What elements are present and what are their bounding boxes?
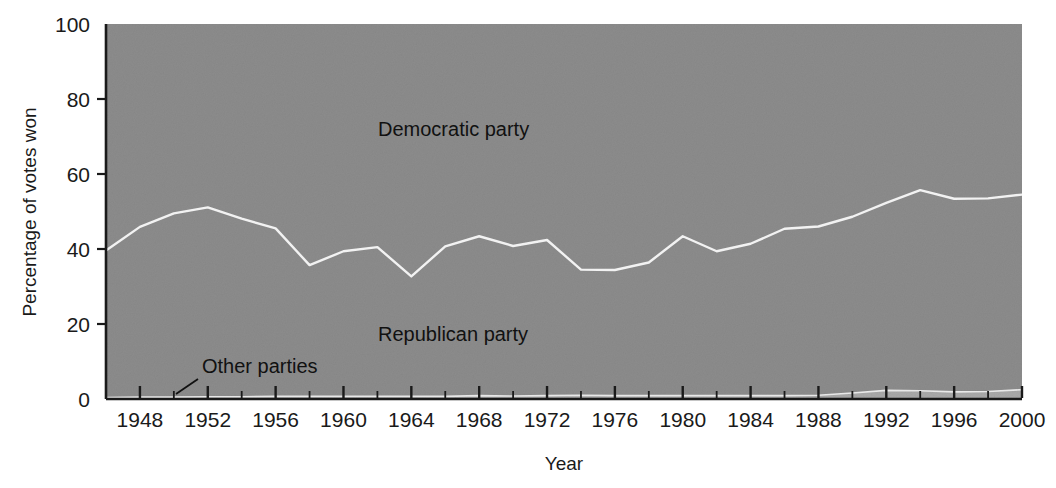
- x-axis-tick-label-1992: 1992: [863, 408, 910, 431]
- y-axis-tick-label-40: 40: [67, 238, 90, 261]
- x-axis-tick-label-1952: 1952: [184, 408, 231, 431]
- x-axis-title: Year: [545, 453, 584, 474]
- y-axis-tick-label-0: 0: [78, 388, 90, 411]
- y-axis-title: Percentage of votes won: [19, 107, 40, 316]
- y-axis-tick-label-100: 100: [55, 13, 90, 36]
- other-parties-label: Other parties: [202, 355, 318, 377]
- x-axis-tick-label-1984: 1984: [727, 408, 774, 431]
- plot-area-bands: [106, 24, 1022, 399]
- x-axis-tick-label-1980: 1980: [659, 408, 706, 431]
- votes-won-stacked-area-chart: 020406080100 194819521956196019641968197…: [0, 0, 1056, 488]
- x-axis-tick-label-1988: 1988: [795, 408, 842, 431]
- x-axis-tick-label-1968: 1968: [456, 408, 503, 431]
- x-axis-tick-label-1956: 1956: [252, 408, 299, 431]
- x-axis-tick-label-1996: 1996: [931, 408, 978, 431]
- x-axis-tick-label-2000: 2000: [999, 408, 1046, 431]
- democratic-party-label: Democratic party: [378, 118, 529, 140]
- chart-figure: 020406080100 194819521956196019641968197…: [0, 0, 1056, 488]
- y-axis-tick-label-20: 20: [67, 313, 90, 336]
- republican-party-label: Republican party: [378, 323, 528, 345]
- x-axis-tick-label-1964: 1964: [388, 408, 435, 431]
- x-axis-tick-label-1972: 1972: [524, 408, 571, 431]
- x-axis-tick-label-1960: 1960: [320, 408, 367, 431]
- x-axis-tick-label-1948: 1948: [117, 408, 164, 431]
- y-axis-tick-label-60: 60: [67, 163, 90, 186]
- y-axis-tick-label-80: 80: [67, 88, 90, 111]
- x-axis-tick-label-1976: 1976: [592, 408, 639, 431]
